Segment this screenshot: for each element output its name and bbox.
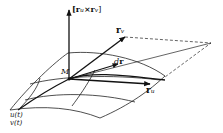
- normal-label: [ru×rv]: [72, 5, 101, 14]
- tangent-parallelogram: [125, 37, 211, 77]
- rv-label: rv: [116, 26, 124, 35]
- normal-label-times: ×r: [84, 4, 95, 14]
- tangent-plane-diagram: [0, 0, 223, 133]
- dr-label: dr: [114, 57, 123, 66]
- surface-patch: [10, 52, 165, 118]
- point-m: [68, 78, 71, 81]
- ru-vector: [69, 79, 150, 84]
- ru-label-sub: u: [151, 87, 155, 94]
- rv-label-sub: v: [121, 27, 124, 34]
- normal-label-close: ]: [98, 5, 101, 14]
- normal-label-open: [r: [72, 4, 80, 14]
- dr-label-r: r: [119, 56, 123, 66]
- point-m-label: M: [61, 68, 69, 76]
- curve-u-label: u(t): [10, 112, 23, 119]
- ru-label: ru: [146, 86, 155, 95]
- curve-v-label: v(t): [10, 120, 22, 127]
- diagonal-line: [69, 43, 211, 79]
